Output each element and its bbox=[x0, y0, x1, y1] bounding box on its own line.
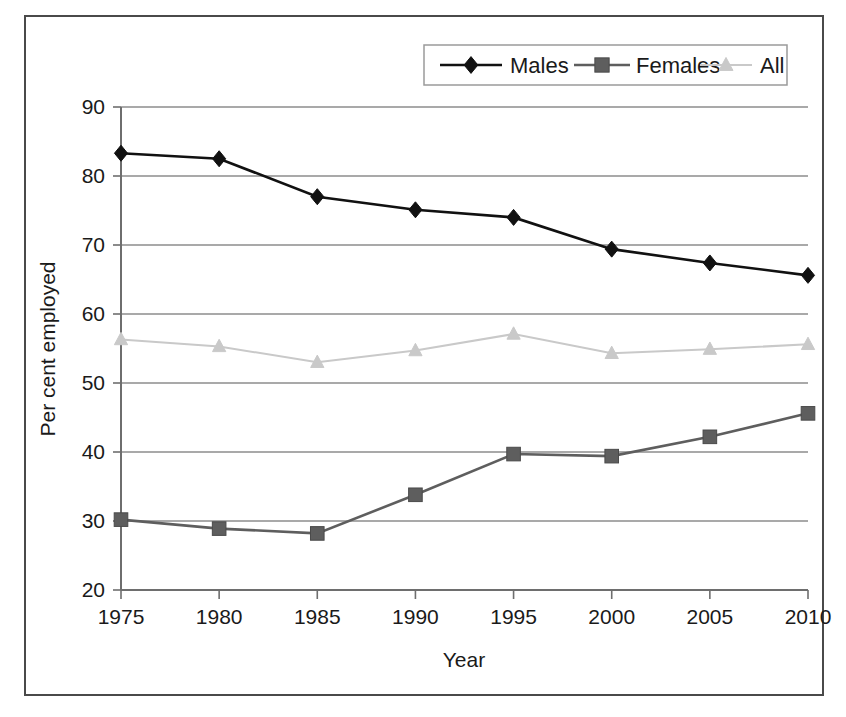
data-point-square bbox=[212, 522, 226, 536]
data-point-square bbox=[507, 447, 521, 461]
chart-legend: MalesFemalesAll bbox=[424, 45, 787, 85]
data-point-diamond bbox=[507, 209, 520, 225]
data-point-square bbox=[703, 430, 717, 444]
x-tick-label: 1980 bbox=[196, 605, 243, 628]
data-point-diamond bbox=[703, 255, 716, 271]
y-tick-label: 80 bbox=[82, 164, 105, 187]
data-point-square bbox=[114, 513, 128, 527]
data-point-square bbox=[595, 58, 609, 72]
data-series-layer bbox=[114, 145, 815, 540]
x-tick-label: 1995 bbox=[490, 605, 537, 628]
x-tick-label: 2000 bbox=[588, 605, 635, 628]
x-axis-title: Year bbox=[443, 648, 485, 671]
series-females bbox=[114, 407, 815, 541]
data-point-square bbox=[801, 407, 815, 421]
y-tick-label: 50 bbox=[82, 371, 105, 394]
x-axis-ticks: 19751980198519901995200020052010 bbox=[98, 590, 832, 628]
line-chart: 2030405060708090 19751980198519901995200… bbox=[0, 0, 846, 717]
legend-label: All bbox=[760, 53, 784, 78]
series-line bbox=[121, 153, 808, 275]
y-axis-title: Per cent employed bbox=[36, 261, 59, 436]
data-point-triangle bbox=[507, 327, 520, 339]
y-tick-label: 20 bbox=[82, 578, 105, 601]
x-tick-label: 1990 bbox=[392, 605, 439, 628]
y-tick-label: 40 bbox=[82, 440, 105, 463]
data-point-triangle bbox=[114, 332, 127, 344]
data-point-diamond bbox=[114, 145, 127, 161]
series-all bbox=[114, 327, 814, 368]
data-point-diamond bbox=[409, 202, 422, 218]
data-point-diamond bbox=[213, 151, 226, 167]
y-tick-label: 30 bbox=[82, 509, 105, 532]
data-point-diamond bbox=[605, 241, 618, 257]
data-point-square bbox=[310, 527, 324, 541]
x-tick-label: 2010 bbox=[785, 605, 832, 628]
y-tick-label: 70 bbox=[82, 233, 105, 256]
data-point-diamond bbox=[801, 267, 814, 283]
series-males bbox=[114, 145, 814, 283]
x-tick-label: 1975 bbox=[98, 605, 145, 628]
y-tick-label: 90 bbox=[82, 95, 105, 118]
chart-figure: 2030405060708090 19751980198519901995200… bbox=[0, 0, 846, 717]
data-point-diamond bbox=[311, 189, 324, 205]
x-tick-label: 2005 bbox=[686, 605, 733, 628]
data-point-square bbox=[605, 449, 619, 463]
data-point-square bbox=[409, 488, 423, 502]
y-tick-label: 60 bbox=[82, 302, 105, 325]
data-point-triangle bbox=[801, 337, 814, 349]
x-tick-label: 1985 bbox=[294, 605, 341, 628]
legend-label: Males bbox=[510, 53, 569, 78]
